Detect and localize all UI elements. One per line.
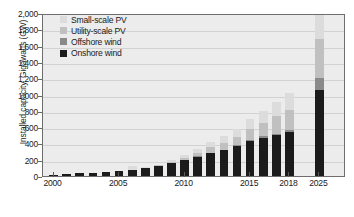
x-axis-tick-label: 2005 (109, 178, 127, 188)
legend-label: Small-scale PV (71, 15, 126, 25)
gridline (43, 113, 344, 114)
bar-segment-offshore-wind (315, 78, 324, 90)
legend-item-utility-scale-pv: Utility-scale PV (60, 25, 126, 36)
y-axis-tick-label: 1,400 (18, 58, 38, 68)
bar-segment-utility-scale-pv (285, 110, 294, 130)
x-axis-tick-mark (318, 172, 319, 177)
bar-segment-small-scale-pv (285, 93, 294, 109)
bar-2013 (220, 136, 229, 176)
bar-segment-onshore-wind (285, 132, 294, 176)
legend-item-offshore-wind: Offshore wind (60, 36, 126, 47)
bar-2012 (206, 142, 215, 176)
bar-segment-onshore-wind (128, 170, 137, 176)
y-axis-tick-label: 200 (25, 156, 38, 166)
gridline (43, 145, 344, 146)
x-axis-tick-label: 2010 (174, 178, 192, 188)
bar-2004 (102, 172, 111, 176)
legend-swatch-icon (60, 16, 67, 23)
bar-2009 (167, 160, 176, 176)
gridline (43, 97, 344, 98)
bar-segment-small-scale-pv (259, 111, 268, 123)
bar-segment-utility-scale-pv (220, 143, 229, 150)
legend-label: Utility-scale PV (71, 26, 126, 36)
x-axis-tick-label: 2025 (309, 178, 327, 188)
bar-2007 (141, 167, 150, 176)
bar-segment-small-scale-pv (246, 119, 255, 129)
bar-2003 (89, 173, 98, 176)
bar-segment-onshore-wind (315, 90, 324, 176)
bar-2018 (285, 93, 294, 176)
bar-segment-utility-scale-pv (315, 39, 324, 78)
bar-2014 (233, 129, 242, 176)
bar-2011 (193, 149, 202, 176)
legend-item-small-scale-pv: Small-scale PV (60, 14, 126, 25)
legend-swatch-icon (60, 27, 67, 34)
bar-segment-onshore-wind (62, 174, 71, 176)
y-axis-tick-label: 1,800 (18, 25, 38, 35)
bar-segment-utility-scale-pv (233, 137, 242, 146)
bar-2015 (246, 119, 255, 176)
x-axis-tick-mark (288, 172, 289, 177)
bar-segment-onshore-wind (193, 157, 202, 176)
bar-segment-onshore-wind (246, 141, 255, 176)
bar-segment-small-scale-pv (315, 15, 324, 39)
legend-swatch-icon (60, 38, 67, 45)
chart-legend: Small-scale PVUtility-scale PVOffshore w… (60, 14, 126, 59)
x-axis-tick-labels: 200020052010201520182025 (0, 178, 354, 198)
legend-swatch-icon (60, 50, 67, 57)
gridline (43, 129, 344, 130)
bar-2006 (128, 166, 137, 176)
bar-segment-onshore-wind (167, 163, 176, 176)
bar-segment-utility-scale-pv (272, 116, 281, 134)
bar-2008 (154, 165, 163, 176)
bar-2017 (272, 102, 281, 176)
y-axis-tick-label: 800 (25, 107, 38, 117)
y-axis-tick-label: 1,200 (18, 74, 38, 84)
bar-segment-onshore-wind (220, 150, 229, 176)
bar-segment-onshore-wind (141, 168, 150, 176)
bar-segment-onshore-wind (89, 173, 98, 176)
bar-segment-onshore-wind (102, 172, 111, 176)
bar-segment-onshore-wind (259, 138, 268, 176)
bar-2016 (259, 111, 268, 176)
x-axis-tick-mark (184, 172, 185, 177)
bar-segment-onshore-wind (75, 173, 84, 176)
gridline (43, 64, 344, 65)
bar-2001 (62, 174, 71, 176)
legend-label: Offshore wind (71, 37, 121, 47)
bar-segment-small-scale-pv (233, 129, 242, 137)
bar-segment-onshore-wind (233, 146, 242, 176)
x-axis-tick-mark (118, 172, 119, 177)
y-axis-tick-label: 1,600 (18, 42, 38, 52)
x-axis-tick-mark (53, 172, 54, 177)
chart-figure: Installed capacity, Gigawatts (GW) 02004… (0, 0, 354, 217)
bar-segment-onshore-wind (154, 166, 163, 176)
y-axis-tick-label: 600 (25, 123, 38, 133)
gridline (43, 80, 344, 81)
y-axis-tick-label: 400 (25, 139, 38, 149)
y-axis-tick-label: 2,000 (18, 9, 38, 19)
x-axis-tick-label: 2015 (240, 178, 258, 188)
bar-segment-utility-scale-pv (259, 123, 268, 137)
bar-segment-onshore-wind (206, 153, 215, 176)
bar-2025 (315, 15, 324, 176)
bar-2002 (75, 173, 84, 176)
x-axis-tick-label: 2000 (43, 178, 61, 188)
x-axis-tick-mark (249, 172, 250, 177)
bar-segment-onshore-wind (272, 135, 281, 176)
x-axis-tick-label: 2018 (279, 178, 297, 188)
bar-segment-small-scale-pv (272, 102, 281, 116)
legend-label: Onshore wind (71, 48, 122, 58)
y-axis-tick-label: 1,000 (18, 91, 38, 101)
bar-segment-utility-scale-pv (246, 129, 255, 140)
legend-item-onshore-wind: Onshore wind (60, 48, 126, 59)
